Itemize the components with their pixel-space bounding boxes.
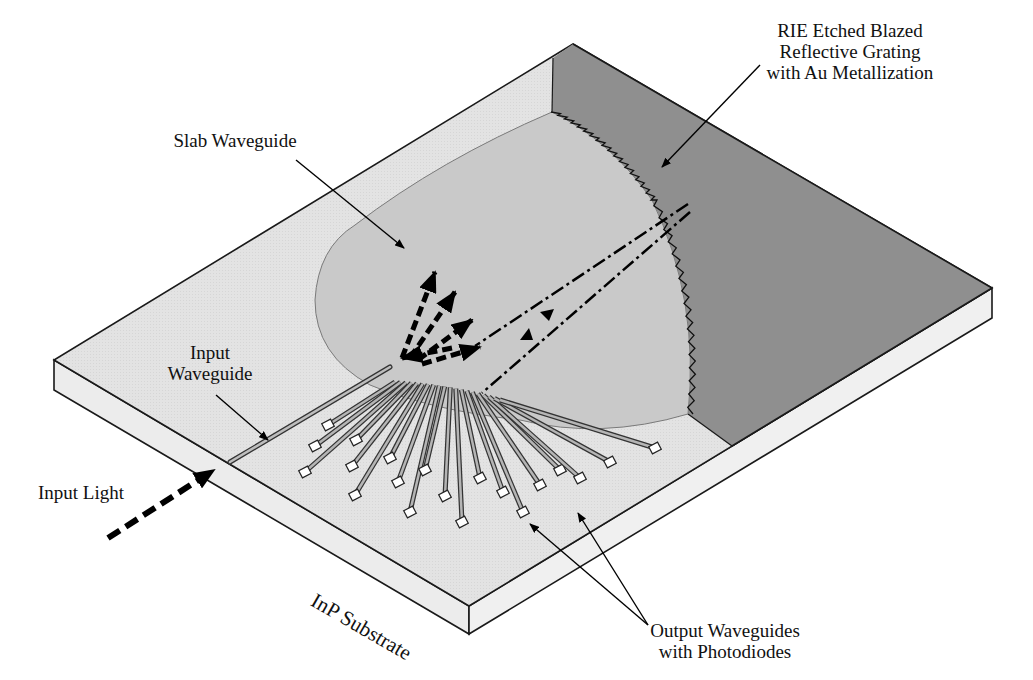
input-waveguide-label-line-2: Waveguide — [160, 363, 260, 384]
output-waveguides-label: Output Waveguides with Photodiodes — [640, 620, 810, 662]
grating-label: RIE Etched Blazed Reflective Grating wit… — [735, 20, 965, 83]
demultiplexer-diagram — [0, 0, 1033, 680]
input-waveguide-label-line-1: Input — [160, 342, 260, 363]
output-label-line-1: Output Waveguides — [640, 620, 810, 641]
input-light-label: Input Light — [38, 482, 148, 503]
slab-waveguide-label: Slab Waveguide — [160, 130, 310, 151]
grating-label-line-3: with Au Metallization — [735, 62, 965, 83]
grating-label-line-2: Reflective Grating — [735, 41, 965, 62]
input-waveguide-label: Input Waveguide — [160, 342, 260, 384]
output-label-line-2: with Photodiodes — [640, 641, 810, 662]
grating-label-line-1: RIE Etched Blazed — [735, 20, 965, 41]
input-light-arrow — [108, 470, 214, 538]
